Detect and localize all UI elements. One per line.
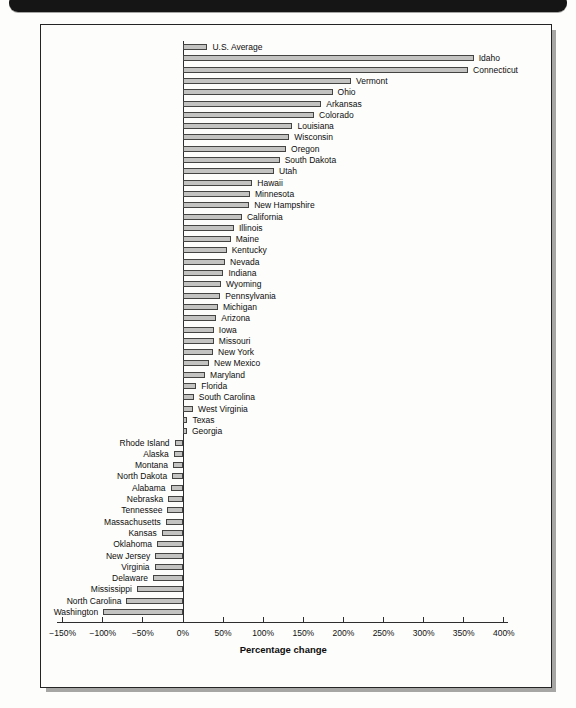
x-axis-tick-label: 300% — [402, 628, 446, 638]
state-label: Vermont — [356, 77, 388, 86]
state-bar — [183, 338, 214, 344]
state-bar — [183, 67, 468, 73]
state-label: Mississippi — [91, 585, 132, 594]
state-label: New Jersey — [106, 552, 150, 561]
state-bar — [183, 44, 207, 50]
state-bar — [183, 428, 187, 434]
state-label: Kansas — [128, 529, 156, 538]
state-label: Wyoming — [226, 280, 261, 289]
state-label: North Dakota — [117, 472, 167, 481]
state-label: Maine — [236, 235, 259, 244]
state-label: Maryland — [210, 371, 245, 380]
state-bar — [183, 304, 218, 310]
state-label: Massachusetts — [104, 518, 161, 527]
state-label: Colorado — [319, 111, 354, 120]
state-label: Alabama — [132, 484, 166, 493]
state-bar — [183, 281, 221, 287]
state-label: Missouri — [219, 337, 251, 346]
state-bar — [137, 586, 183, 592]
x-axis-tick — [503, 617, 504, 622]
state-label: Oklahoma — [113, 540, 152, 549]
state-label: Nebraska — [127, 495, 163, 504]
state-label: Indiana — [228, 269, 256, 278]
x-axis-tick — [423, 617, 424, 622]
state-bar — [162, 530, 183, 536]
x-axis-tick-label: 150% — [281, 628, 325, 638]
state-bar — [183, 394, 194, 400]
state-bar — [157, 541, 183, 547]
state-bar — [183, 168, 274, 174]
state-bar — [183, 225, 234, 231]
x-axis-tick-label: 50% — [201, 628, 245, 638]
state-label: Idaho — [479, 54, 500, 63]
state-bar — [155, 564, 183, 570]
state-label: Rhode Island — [120, 439, 170, 448]
state-label: Ohio — [338, 88, 356, 97]
x-axis-tick — [303, 617, 304, 622]
state-bar — [183, 55, 474, 61]
state-label: Pennsylvania — [225, 292, 276, 301]
x-axis-line — [57, 622, 508, 623]
state-bar — [183, 372, 205, 378]
state-bar — [183, 112, 314, 118]
state-bar — [153, 575, 183, 581]
state-label: Florida — [201, 382, 227, 391]
state-label: Washington — [54, 608, 99, 617]
state-bar — [183, 123, 292, 129]
state-bar — [183, 78, 351, 84]
state-bar — [183, 191, 250, 197]
state-label: Montana — [135, 461, 168, 470]
state-bar — [183, 327, 214, 333]
state-bar — [174, 451, 183, 457]
state-label: Alaska — [143, 450, 169, 459]
x-axis-tick — [343, 617, 344, 622]
state-bar — [183, 349, 213, 355]
state-label: Georgia — [192, 427, 222, 436]
state-bar — [183, 89, 333, 95]
state-bar — [103, 609, 183, 615]
x-axis-tick-label: 350% — [442, 628, 486, 638]
state-label: Virginia — [121, 563, 149, 572]
state-bar — [173, 462, 183, 468]
x-axis-tick-label: 100% — [241, 628, 285, 638]
state-bar — [183, 383, 196, 389]
x-axis-tick — [463, 617, 464, 622]
x-axis-tick — [142, 617, 143, 622]
state-label: New Hampshire — [254, 201, 314, 210]
state-bar — [168, 496, 183, 502]
state-label: California — [247, 213, 283, 222]
state-label: Minnesota — [255, 190, 294, 199]
state-bar — [183, 293, 220, 299]
state-label: North Carolina — [67, 597, 122, 606]
x-axis-tick-label: 200% — [321, 628, 365, 638]
x-axis-tick — [183, 617, 184, 622]
state-bar — [172, 473, 183, 479]
state-bar — [166, 519, 183, 525]
state-bar — [183, 214, 242, 220]
page: Percentage change −150%−100%−50%0%50%100… — [0, 0, 576, 708]
state-bar — [183, 315, 216, 321]
state-bar — [183, 134, 289, 140]
state-bar — [183, 417, 187, 423]
bar-chart: Percentage change −150%−100%−50%0%50%100… — [0, 0, 576, 708]
state-label: Hawaii — [257, 179, 283, 188]
state-label: Iowa — [219, 326, 237, 335]
state-label: Arizona — [221, 314, 250, 323]
state-bar — [183, 101, 321, 107]
state-label: South Carolina — [199, 393, 255, 402]
state-bar — [171, 485, 183, 491]
state-label: Arkansas — [326, 100, 361, 109]
x-axis-tick-label: −150% — [41, 628, 85, 638]
state-bar — [183, 270, 223, 276]
x-axis-tick — [223, 617, 224, 622]
state-bar — [183, 236, 231, 242]
state-bar — [183, 360, 209, 366]
state-label: U.S. Average — [212, 43, 262, 52]
state-label: Kentucky — [232, 246, 267, 255]
state-bar — [175, 440, 183, 446]
state-label: Wisconsin — [294, 133, 333, 142]
x-axis-tick-label: 400% — [482, 628, 526, 638]
x-axis-tick — [62, 617, 63, 622]
state-bar — [183, 180, 252, 186]
state-label: Texas — [192, 416, 214, 425]
